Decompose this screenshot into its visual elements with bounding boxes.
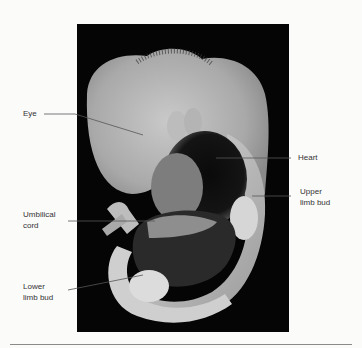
embryo-illustration bbox=[77, 24, 289, 332]
label-upper-limb-bud: Upper limb bud bbox=[300, 186, 330, 208]
label-heart: Heart bbox=[298, 152, 318, 163]
label-umbilical-cord: Umbilical cord bbox=[23, 209, 55, 231]
embryo-photo bbox=[77, 24, 289, 332]
label-eye: Eye bbox=[23, 108, 37, 119]
bottom-rule bbox=[10, 344, 352, 345]
label-lower-limb-bud: Lower limb bud bbox=[23, 281, 53, 303]
